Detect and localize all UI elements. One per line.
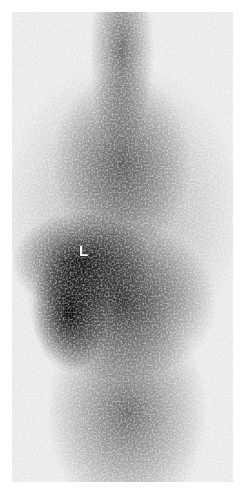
noise-texture xyxy=(12,12,233,482)
liver-label: L xyxy=(79,242,88,259)
scintigraphy-image: L xyxy=(12,12,233,482)
